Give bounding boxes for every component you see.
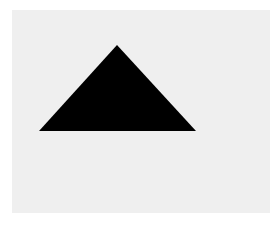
triangle-icon	[39, 45, 196, 131]
shape-layer	[0, 0, 279, 226]
figure-canvas	[0, 0, 279, 226]
